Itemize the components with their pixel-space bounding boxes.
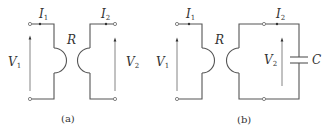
wire-top-left: [32, 24, 55, 48]
wire-top-right: [90, 24, 114, 48]
arrow-head-icon: [114, 38, 117, 42]
terminal-icon: [175, 97, 178, 100]
panel-b: I1 I2 V1 V2 R C (b): [156, 7, 321, 125]
arrow-head-icon: [29, 36, 32, 40]
wire-top-left-segment: [239, 24, 263, 48]
caption-a: (a): [61, 113, 75, 124]
terminal-icon: [175, 22, 178, 25]
label-i1-a: I1: [38, 7, 48, 22]
terminal-icon: [113, 97, 116, 100]
terminal-icon: [262, 97, 265, 100]
label-v2-b: V2: [264, 53, 277, 68]
half-gap-left: [202, 48, 214, 73]
wire-bottom-left: [179, 73, 203, 99]
panel-a-output-port: [78, 22, 117, 100]
current-marker-icon: [276, 23, 278, 25]
terminal-icon: [262, 22, 265, 25]
terminal-icon: [28, 22, 31, 25]
wire-bottom-left: [32, 73, 55, 99]
label-v1-a: V1: [8, 55, 21, 70]
label-r-b: R: [214, 33, 224, 47]
label-v2-a: V2: [126, 55, 139, 70]
panel-a-input-port: [28, 22, 66, 100]
arrow-head-icon: [176, 38, 179, 42]
half-gap-left: [54, 48, 66, 73]
circuit-diagram: I1 I2 V1 V2 R (a): [0, 0, 329, 133]
current-marker-icon: [105, 23, 107, 25]
arrow-head-icon: [281, 38, 284, 42]
wire-top-left: [179, 24, 203, 48]
label-v1-b: V1: [156, 55, 169, 70]
label-i2-a: I2: [100, 7, 110, 22]
label-i1-b: I1: [185, 7, 195, 22]
wire-bottom-right: [90, 73, 114, 99]
label-c-b: C: [312, 53, 321, 67]
current-marker-icon: [39, 23, 41, 25]
panel-b-input-port: [175, 22, 214, 100]
caption-b: (b): [237, 114, 251, 125]
terminal-icon: [113, 22, 116, 25]
label-i2-b: I2: [275, 7, 285, 22]
terminal-icon: [28, 97, 31, 100]
half-gap-right: [227, 48, 239, 73]
panel-a: I1 I2 V1 V2 R (a): [8, 7, 139, 124]
wire-bottom-left-segment: [239, 73, 263, 99]
half-gap-right: [78, 48, 90, 73]
current-marker-icon: [188, 23, 190, 25]
label-r-a: R: [66, 33, 76, 47]
